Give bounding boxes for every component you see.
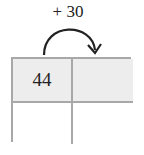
grid-cell <box>13 103 73 144</box>
grid-cell-result <box>73 59 133 103</box>
curved-arrow-icon <box>0 0 144 60</box>
grid-cell-start: 44 <box>13 59 73 103</box>
grid-cell <box>73 103 133 144</box>
number-grid: 44 <box>11 57 131 142</box>
